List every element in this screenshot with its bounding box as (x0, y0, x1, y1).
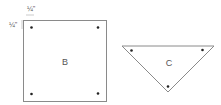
plate-b-label: B (62, 57, 68, 67)
hole-icon (130, 49, 133, 52)
plate-b: B (24, 21, 107, 102)
hole-icon (30, 26, 33, 29)
hole-icon (97, 26, 100, 29)
hole-icon (30, 93, 33, 96)
plate-c-outline (122, 46, 214, 92)
hole-icon (167, 85, 170, 88)
plate-c-label: C (166, 58, 173, 68)
diagram-canvas: ¼" ¼" B C (0, 0, 221, 105)
dimension-left-label: ¼" (9, 21, 18, 28)
hole-icon (201, 49, 204, 52)
plate-c: C (122, 46, 214, 92)
dimension-top-label: ¼" (27, 5, 36, 12)
hole-icon (97, 92, 100, 95)
